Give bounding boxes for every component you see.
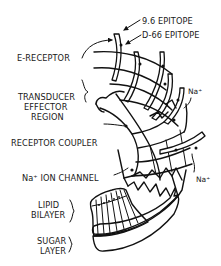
sugar-layer-shape xyxy=(93,188,179,251)
ion-channel-shape xyxy=(124,168,186,196)
label-receptor-coupler: RECEPTOR COUPLER xyxy=(11,138,98,148)
label-na-top: Na⁺ xyxy=(188,87,202,96)
ion-channel-leader xyxy=(114,168,128,175)
label-lipid-line1: LIPID xyxy=(38,200,59,210)
na-top-leader xyxy=(184,98,191,108)
epitope-96-arrow xyxy=(124,20,140,30)
na-bottom-leader xyxy=(192,154,195,172)
receptor-coupler-leader xyxy=(104,124,126,126)
transducer-brace xyxy=(82,80,88,102)
label-transducer-line1: TRANSDUCER xyxy=(17,92,75,102)
lipid-brace xyxy=(70,200,74,222)
lipid-bilayer-shape xyxy=(91,189,149,237)
sugar-brace xyxy=(69,237,72,252)
e-receptor-arrow xyxy=(82,40,112,58)
label-transducer-line2: EFFECTOR xyxy=(24,102,68,112)
epitope-d66-arrow xyxy=(126,35,141,44)
label-sugar-line2: LAYER xyxy=(40,246,66,256)
label-epitope-96: 9.6 EPITOPE xyxy=(142,16,193,26)
label-lipid-line2: BILAYER xyxy=(31,210,66,220)
label-transducer-line3: REGION xyxy=(31,112,64,122)
label-na-bottom: Na⁺ xyxy=(196,175,210,184)
label-e-receptor: E-RECEPTOR xyxy=(17,53,70,63)
label-epitope-d66: D-66 EPITOPE xyxy=(142,30,200,40)
label-sugar-line1: SUGAR xyxy=(37,236,67,246)
membrane-receptor-diagram: 9.6 EPITOPE D-66 EPITOPE E-RECEPTOR Na⁺ … xyxy=(0,0,221,266)
label-na-ion-channel: Na⁺ ION CHANNEL xyxy=(22,173,99,183)
